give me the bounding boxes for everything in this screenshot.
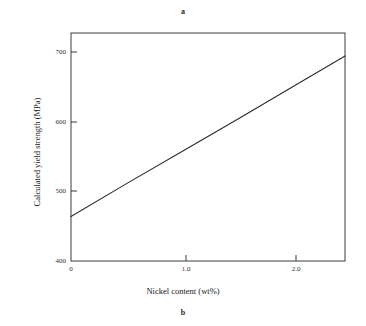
y-tick-label-500: 500	[40, 187, 66, 195]
x-tick-label-2: 2.0	[283, 265, 309, 273]
x-axis-title: Nickel content (wt%)	[0, 286, 366, 296]
y-tick-label-600: 600	[40, 118, 66, 126]
chart-plot-area: 700 600 500 400 0 1.0 2.0 Calculated yie…	[0, 0, 366, 326]
plot-frame	[71, 33, 345, 261]
y-tick-label-400: 400	[40, 257, 66, 265]
x-tick-label-0: 0	[58, 265, 84, 273]
y-tick-label-700: 700	[40, 48, 66, 56]
y-axis-title: Calculated yield strength (MPa)	[32, 52, 42, 252]
figure-caption-bottom: b	[0, 308, 366, 317]
x-tick-label-1: 1.0	[173, 265, 199, 273]
figure-panel: a 700 600 500 400 0 1.0 2.0	[0, 0, 366, 326]
